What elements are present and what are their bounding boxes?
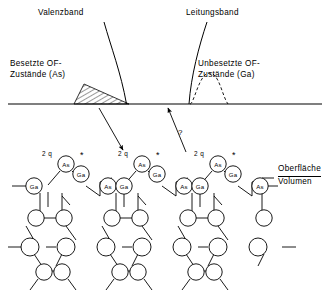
star-marker: * [232, 150, 236, 161]
atom-label-as: As [256, 183, 263, 190]
atom-bulk [56, 210, 72, 226]
star-marker: * [80, 150, 84, 161]
atom-bulk [21, 238, 39, 256]
atom-bulk [209, 238, 227, 256]
atom-label-as: As [138, 161, 145, 168]
lattice-bulk-row [21, 238, 267, 256]
atom-label-ga: Ga [120, 183, 129, 190]
atom-bulk [256, 210, 272, 226]
atom-bulk [249, 238, 267, 256]
diagram-canvas: As Ga Ga As As Ga Ga As [0, 0, 332, 296]
atom-label-as: As [180, 183, 187, 190]
atom-bulk [130, 264, 146, 280]
occupied-states-hatch [74, 84, 129, 104]
valence-band-curve [104, 22, 127, 104]
atom-label-as: As [104, 183, 111, 190]
lattice-unit-cell: As Ga Ga As [26, 156, 116, 194]
atom-bulk [133, 238, 151, 256]
lattice-bulk-row [36, 264, 222, 280]
valence-band-label: Valenzband [38, 8, 84, 19]
atom-bulk [57, 238, 75, 256]
lattice-unit-cell: As Ga Ga As [116, 156, 192, 194]
atom-bulk [36, 264, 52, 280]
charge-label: 2 q [118, 149, 128, 160]
atom-bulk [104, 210, 120, 226]
arrow-unoccupied-from-ga [168, 108, 186, 152]
charge-label: 2 q [42, 149, 52, 160]
atom-bulk [208, 210, 224, 226]
surface-label: Oberfläche [278, 164, 321, 177]
bulk-label: Volumen [278, 177, 312, 188]
crystal-lattice: As Ga Ga As As Ga Ga As [8, 156, 296, 290]
atom-bulk [28, 210, 44, 226]
occupied-states-label: Besetzte OF- Zustände (As) [10, 59, 65, 80]
lattice-bulk-row [28, 210, 272, 226]
star-marker: * [156, 150, 160, 161]
atom-label-ga: Ga [196, 183, 205, 190]
arrow-occupied-to-as [99, 108, 123, 150]
atom-bulk [112, 264, 128, 280]
atom-bulk [54, 264, 70, 280]
atom-bulk [173, 238, 191, 256]
atom-bulk [188, 264, 204, 280]
atom-bulk [206, 264, 222, 280]
conduction-band-label: Leitungsband [186, 8, 239, 19]
atom-label-ga: Ga [229, 171, 238, 178]
atom-bulk [97, 238, 115, 256]
atom-label-ga: Ga [30, 183, 39, 190]
atom-bulk [180, 210, 196, 226]
unoccupied-states-label: Unbesetzte OF- Zustände (Ga) [198, 59, 260, 80]
atom-label-as: As [214, 161, 221, 168]
atom-label-ga: Ga [77, 171, 86, 178]
atom-label-as: As [62, 161, 69, 168]
band-diagram-figure: As Ga Ga As As Ga Ga As [0, 0, 332, 296]
atom-label-ga: Ga [153, 171, 162, 178]
charge-label: 2 q [194, 149, 204, 160]
question-mark-label: ? [178, 128, 183, 139]
lattice-unit-cell: As Ga Ga As [192, 156, 268, 194]
atom-bulk [132, 210, 148, 226]
